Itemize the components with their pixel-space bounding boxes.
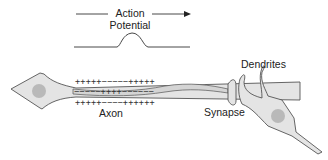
neuron-diagram: Action Potential +++++−−−−−+++++ −−−−−++… [0, 0, 328, 160]
charges-inner: −−−−−++++−−−−−− [74, 86, 154, 96]
charges-outer-top: +++++−−−−−+++++ [75, 76, 155, 86]
action-potential-waveform [74, 33, 190, 47]
action-potential-label-line2: Potential [110, 19, 151, 31]
axon-label: Axon [99, 107, 123, 119]
nucleus-left [32, 84, 46, 98]
synapse-terminal [228, 80, 236, 105]
arrow-head-icon [184, 11, 191, 17]
action-potential-label-line1: Action [115, 7, 144, 19]
charges-outer-bottom: +++++−−−−++++++ [75, 97, 155, 107]
nucleus-right [271, 109, 285, 123]
dendrites-label: Dendrites [241, 58, 286, 70]
synapse-label: Synapse [204, 106, 245, 118]
